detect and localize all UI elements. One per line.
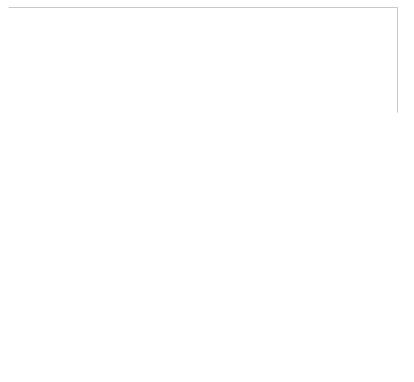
container-border [9,7,398,113]
rect-frame [9,7,398,113]
frame-rect [9,7,398,113]
border [9,8,398,112]
page-frame [9,7,398,112]
diagram-border [9,7,398,113]
outline [9,7,398,113]
frame [9,8,398,112]
ergonomics-diagram [0,0,414,382]
figure-outline [9,7,398,113]
figure-border [9,7,398,113]
outer-border [9,7,398,113]
figure-frame [9,7,398,113]
diagram-frame [9,8,398,112]
box-frame [9,7,398,113]
outer-frame [9,8,398,113]
frame-border [9,8,398,113]
main-border [9,7,398,112]
